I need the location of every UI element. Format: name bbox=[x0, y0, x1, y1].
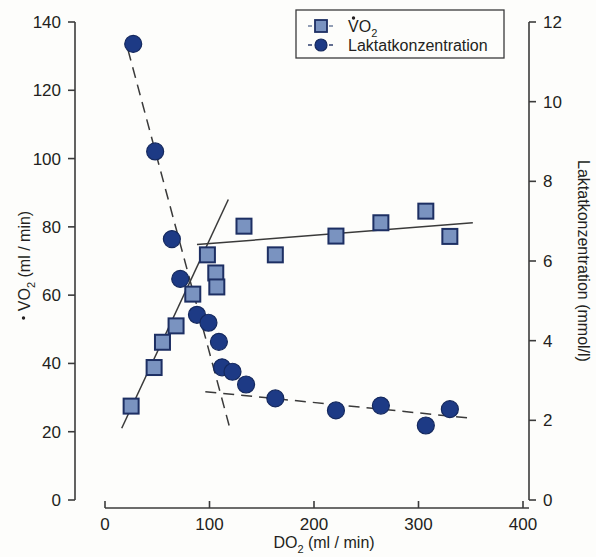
left-axis-tick-label: 20 bbox=[42, 423, 61, 442]
legend-marker-laktat bbox=[315, 39, 327, 51]
data-point-laktat bbox=[267, 390, 284, 407]
data-point-vo2 bbox=[328, 229, 343, 244]
bottom-axis-tick-label: 300 bbox=[404, 515, 432, 534]
data-point-laktat bbox=[163, 231, 180, 248]
legend-label-laktat: Laktatkonzentration bbox=[348, 37, 488, 54]
data-point-laktat bbox=[372, 397, 389, 414]
left-axis-tick-label: 120 bbox=[33, 81, 61, 100]
data-point-laktat bbox=[417, 417, 434, 434]
data-point-vo2 bbox=[169, 318, 184, 333]
data-point-vo2 bbox=[268, 247, 283, 262]
left-axis-title-overdot bbox=[22, 316, 25, 319]
data-point-vo2 bbox=[208, 265, 223, 280]
data-point-vo2 bbox=[155, 335, 170, 350]
data-point-laktat bbox=[147, 143, 164, 160]
data-point-laktat bbox=[210, 333, 227, 350]
chart-figure: 020406080100120140 024681012 01002003004… bbox=[0, 0, 596, 557]
data-point-laktat bbox=[441, 401, 458, 418]
left-axis-tick-label: 60 bbox=[42, 286, 61, 305]
data-point-vo2 bbox=[418, 204, 433, 219]
left-axis-tick-label: 40 bbox=[42, 354, 61, 373]
right-axis-tick-label: 10 bbox=[543, 93, 562, 112]
bottom-axis-tick-label: 0 bbox=[100, 515, 109, 534]
data-point-vo2 bbox=[147, 360, 162, 375]
data-point-vo2 bbox=[185, 287, 200, 302]
bottom-axis-tick-label: 200 bbox=[300, 515, 328, 534]
data-point-vo2 bbox=[200, 247, 215, 262]
data-point-vo2 bbox=[373, 215, 388, 230]
right-axis-tick-label: 2 bbox=[543, 411, 552, 430]
data-point-vo2 bbox=[124, 399, 139, 414]
left-axis-tick-label: 0 bbox=[52, 491, 61, 510]
data-point-laktat bbox=[238, 376, 255, 393]
data-point-vo2 bbox=[442, 229, 457, 244]
data-point-laktat bbox=[200, 314, 217, 331]
data-point-laktat bbox=[172, 270, 189, 287]
left-axis-tick-label: 140 bbox=[33, 13, 61, 32]
bottom-axis-tick-label: 400 bbox=[509, 515, 537, 534]
legend-marker-vo2 bbox=[315, 20, 327, 32]
right-axis-tick-label: 12 bbox=[543, 13, 562, 32]
bottom-axis-tick-label: 100 bbox=[195, 515, 223, 534]
right-axis-title: Laktatkonzentration (mmol/l) bbox=[575, 160, 592, 362]
chart-legend: VO2Laktatkonzentration bbox=[296, 10, 504, 58]
data-point-laktat bbox=[327, 402, 344, 419]
chart-canvas: 020406080100120140 024681012 01002003004… bbox=[0, 0, 596, 557]
data-point-laktat bbox=[224, 363, 241, 380]
left-axis-tick-label: 80 bbox=[42, 218, 61, 237]
data-point-vo2 bbox=[209, 279, 224, 294]
left-axis-tick-label: 100 bbox=[33, 150, 61, 169]
right-axis-tick-label: 4 bbox=[543, 332, 552, 351]
data-point-laktat bbox=[125, 35, 142, 52]
legend-vo2-overdot bbox=[352, 16, 355, 19]
right-axis-tick-label: 8 bbox=[543, 172, 552, 191]
data-point-vo2 bbox=[236, 219, 251, 234]
chart-background bbox=[0, 0, 596, 557]
right-axis-tick-label: 6 bbox=[543, 252, 552, 271]
right-axis-tick-label: 0 bbox=[543, 491, 552, 510]
